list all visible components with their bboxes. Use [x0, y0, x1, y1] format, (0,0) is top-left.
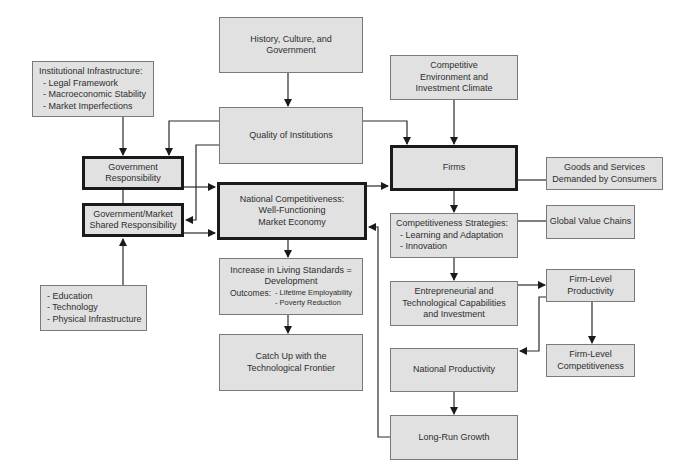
node-text: Entrepreneurial and — [414, 286, 493, 298]
node-item: - Learning and Adaptation — [396, 230, 503, 242]
node-text: History, Culture, and — [250, 34, 331, 46]
node-text: Increase in Living Standards = — [230, 265, 351, 277]
node-firms: Firms — [390, 145, 518, 191]
node-global-value-chains: Global Value Chains — [546, 205, 635, 239]
node-entrepreneurial-capabilities: Entrepreneurial and Technological Capabi… — [390, 281, 518, 326]
node-text: Goods and Services — [564, 162, 645, 174]
node-text: Long-Run Growth — [418, 432, 489, 444]
node-text: Responsibility — [105, 173, 161, 185]
node-text: Government/Market — [93, 209, 173, 221]
node-living-standards: Increase in Living Standards = Developme… — [219, 258, 363, 315]
node-text: Global Value Chains — [550, 216, 631, 228]
node-shared-responsibility: Government/Market Shared Responsibility — [82, 203, 184, 237]
node-text: Environment and — [420, 72, 488, 84]
node-long-run-growth: Long-Run Growth — [390, 415, 518, 460]
node-national-competitiveness: National Competitiveness: Well-Functioni… — [217, 182, 367, 240]
node-text: Well-Functioning — [259, 205, 326, 217]
node-title: Competitiveness Strategies: — [396, 218, 508, 230]
node-item: - Market Imperfections — [39, 101, 133, 113]
node-text: Competitiveness — [557, 361, 624, 373]
node-text: Investment Climate — [415, 83, 492, 95]
node-text: Productivity — [567, 286, 614, 298]
node-education-technology-infrastructure: - Education - Technology - Physical Infr… — [40, 285, 147, 331]
node-text: Shared Responsibility — [89, 220, 176, 232]
node-competitive-environment: Competitive Environment and Investment C… — [390, 55, 518, 100]
node-text: Technological Capabilities — [402, 298, 506, 310]
node-text: Catch Up with the — [255, 351, 326, 363]
node-institutional-infrastructure: Institutional Infrastructure: - Legal Fr… — [32, 61, 154, 117]
node-text: Firms — [443, 162, 466, 174]
node-competitiveness-strategies: Competitiveness Strategies: - Learning a… — [390, 213, 518, 258]
node-government-responsibility: Government Responsibility — [82, 156, 184, 190]
outcome-item: - Lifetime Employability — [275, 288, 352, 299]
node-text: Government — [266, 45, 316, 57]
node-firm-level-competitiveness: Firm-Level Competitiveness — [546, 344, 635, 377]
node-text: Technological Frontier — [247, 363, 335, 375]
node-text: National Competitiveness: — [240, 194, 345, 206]
node-catch-up-frontier: Catch Up with the Technological Frontier — [219, 334, 363, 391]
node-text: Quality of Institutions — [249, 130, 333, 142]
outcome-item: - Poverty Reduction — [275, 298, 352, 309]
node-quality-of-institutions: Quality of Institutions — [219, 107, 363, 164]
node-text: Development — [264, 276, 317, 288]
node-item: - Innovation — [396, 241, 447, 253]
node-text: Firm-Level — [569, 349, 612, 361]
node-item: - Legal Framework — [39, 78, 118, 90]
outcomes-block: Outcomes: - Lifetime Employability - Pov… — [230, 288, 352, 309]
node-firm-level-productivity: Firm-Level Productivity — [546, 269, 635, 302]
node-text: Market Economy — [258, 217, 326, 229]
node-text: and Investment — [423, 309, 485, 321]
node-history-culture-government: History, Culture, and Government — [219, 17, 363, 73]
outcomes-label: Outcomes: — [230, 288, 271, 309]
node-text: National Productivity — [413, 364, 495, 376]
node-national-productivity: National Productivity — [390, 348, 518, 392]
node-item: - Physical Infrastructure — [47, 314, 142, 326]
node-text: Competitive — [430, 60, 478, 72]
node-text: Government — [108, 162, 158, 174]
node-text: Demanded by Consumers — [552, 174, 657, 186]
node-item: - Macroeconomic Stability — [39, 89, 146, 101]
node-item: - Education — [47, 291, 93, 303]
node-goods-services: Goods and Services Demanded by Consumers — [546, 157, 663, 190]
node-title: Institutional Infrastructure: — [39, 66, 143, 78]
node-text: Firm-Level — [569, 274, 612, 286]
node-item: - Technology — [47, 302, 98, 314]
